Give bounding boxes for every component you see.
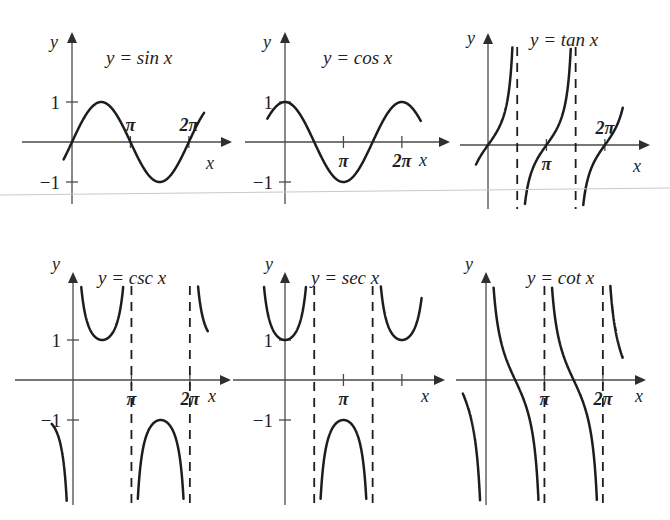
y-tick-label: 1 (264, 330, 274, 351)
y-axis-label: y (465, 28, 475, 48)
y-axis (68, 272, 78, 505)
curve-secant (381, 286, 422, 340)
y-axis (483, 33, 493, 209)
y-axis-label: y (50, 254, 60, 274)
equation-label: y = csc x (96, 267, 167, 288)
equation-label: y = cos x (321, 47, 393, 68)
y-axis (280, 32, 290, 204)
x-axis (245, 137, 450, 147)
curve-cotangent (494, 288, 539, 500)
x-axis-label: x (205, 153, 214, 173)
x-axis-label: x (207, 386, 216, 406)
equation-label: y = sin x (104, 47, 173, 68)
curve-cosecant (138, 420, 184, 499)
trig-graph-sheet: 1−1π2πyxy = sin x1−1π2πyxy = cos xπ2πyxy… (0, 0, 670, 520)
panel-sine: 1−1π2πyxy = sin x (10, 14, 232, 210)
equation-label: y = tan x (528, 29, 599, 50)
equation-label: y = sec x (309, 267, 380, 288)
y-axis-label: y (48, 32, 58, 52)
curve-secant (321, 420, 367, 499)
y-axis (481, 272, 491, 505)
x-tick-label: π (339, 151, 350, 171)
panel-cosine: 1−1π2πyxy = cos x (233, 14, 455, 210)
y-tick-label: −1 (253, 410, 273, 431)
x-axis-label: x (634, 386, 643, 406)
x-tick-label: π (339, 389, 350, 409)
y-tick-label: −1 (253, 172, 273, 193)
curve-cosecant (198, 286, 208, 331)
y-tick-label: 1 (264, 92, 274, 113)
y-tick-pos1: 1 (52, 330, 80, 351)
curve-tangent (476, 48, 512, 165)
y-tick-label: 1 (51, 92, 61, 113)
x-axis (233, 375, 445, 385)
y-axis (280, 272, 290, 505)
curve-cotangent (552, 288, 597, 500)
panel-cosecant: 1−1π2πyxy = csc x (10, 262, 232, 514)
y-tick-label: −1 (41, 410, 61, 431)
panel-secant: 1−1πyxy = sec x (233, 262, 455, 514)
curve-cosecant (81, 287, 123, 340)
y-axis-label: y (261, 32, 271, 52)
y-tick-label: 1 (52, 330, 62, 351)
x-axis-label: x (418, 150, 427, 170)
equation-label: y = cot x (525, 267, 595, 288)
x-axis (22, 137, 232, 147)
y-axis-label: y (463, 254, 473, 274)
x-tick-label: π (542, 154, 553, 174)
x-axis (15, 375, 231, 385)
x-axis-label: x (420, 386, 429, 406)
panel-cotangent: π2πyxy = cot x (455, 262, 670, 514)
x-tick-label: π (126, 115, 137, 135)
x-axis-label: x (632, 156, 641, 176)
y-tick-pos1: 1 (51, 92, 79, 113)
curve-cosecant (52, 424, 67, 501)
x-axis (456, 375, 646, 385)
curve-tangent (525, 49, 571, 204)
y-axis (67, 32, 77, 204)
panel-tangent: π2πyxy = tan x (455, 14, 670, 210)
y-tick-label: −1 (40, 172, 60, 193)
x-tick-label: 2π (391, 151, 412, 171)
curve-cotangent (463, 394, 480, 501)
y-axis-label: y (263, 254, 273, 274)
curve-cotangent (610, 286, 622, 358)
